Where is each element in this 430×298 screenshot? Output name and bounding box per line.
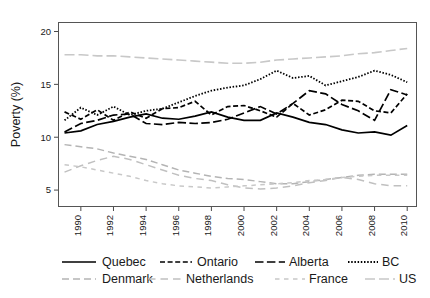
legend-label-denmark[interactable]: Denmark [102, 272, 153, 286]
series-line-ontario [65, 94, 408, 120]
x-tick-label-2010: 2010 [398, 215, 409, 236]
series-line-denmark [65, 145, 408, 184]
x-tick-label-1992: 1992 [104, 215, 115, 236]
y-axis-label: Poverty (%) [9, 82, 23, 147]
x-tick-label-2008: 2008 [366, 215, 377, 236]
x-tick-label-1994: 1994 [137, 215, 148, 236]
x-tick-label-2000: 2000 [235, 215, 246, 236]
legend-label-us[interactable]: US [399, 272, 416, 286]
x-tick-label-1996: 1996 [170, 215, 181, 236]
y-tick-label-15: 15 [40, 79, 51, 90]
x-tick-label-1990: 1990 [72, 215, 83, 236]
series-line-netherlands [65, 156, 408, 189]
poverty-line-chart-figure: 5101520199019921994199619982000200220042… [0, 0, 430, 298]
x-tick-label-1998: 1998 [202, 215, 213, 236]
series-line-us [65, 48, 408, 63]
chart-svg: 5101520199019921994199619982000200220042… [0, 0, 430, 298]
series-line-france [65, 165, 408, 188]
legend-label-quebec[interactable]: Quebec [102, 255, 146, 269]
x-tick-label-2002: 2002 [268, 215, 279, 236]
series-line-alberta [65, 90, 408, 132]
clipped-top-text [0, 0, 430, 4]
legend-label-france[interactable]: France [309, 272, 348, 286]
y-tick-label-5: 5 [46, 184, 51, 195]
x-tick-label-2004: 2004 [300, 215, 311, 236]
y-tick-label-10: 10 [40, 132, 51, 143]
x-tick-label-2006: 2006 [333, 215, 344, 236]
y-tick-label-20: 20 [40, 26, 51, 37]
legend-label-bc[interactable]: BC [382, 255, 399, 269]
legend-label-ontario[interactable]: Ontario [197, 255, 238, 269]
series-line-bc [65, 71, 408, 121]
legend-label-netherlands[interactable]: Netherlands [186, 272, 253, 286]
legend-label-alberta[interactable]: Alberta [289, 255, 329, 269]
